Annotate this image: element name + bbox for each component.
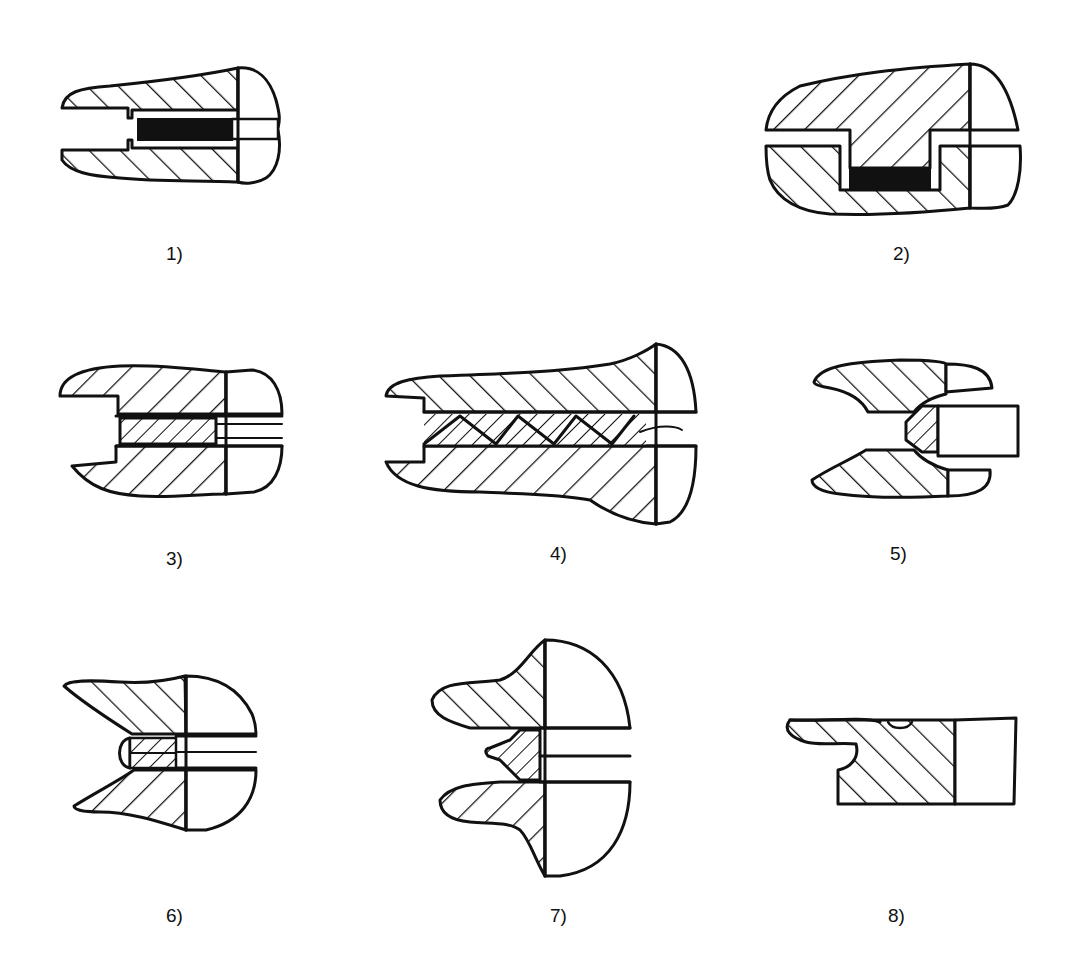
figure-8-label: 8) (888, 905, 905, 927)
figure-8-drawing (0, 0, 1075, 979)
figure-8: 8) (0, 0, 1075, 979)
